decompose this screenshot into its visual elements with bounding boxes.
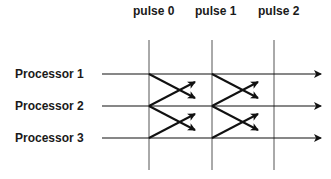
timeline-diagram [0, 0, 331, 179]
pulse-lines [149, 40, 274, 170]
